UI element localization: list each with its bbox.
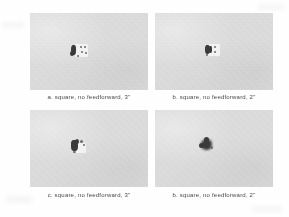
panel-a-target-blob: [68, 43, 90, 61]
panel-a: [30, 13, 148, 90]
panel-b-caption: b. square, no feedforward, 2ʺ: [155, 94, 273, 100]
panel-b-caption-text: b. square, no feedforward, 2ʺ: [173, 94, 256, 100]
panel-c: [30, 110, 148, 187]
panel-a-caption: a. square, no feedforward, 3ʺ: [30, 94, 148, 100]
panel-c-caption: c. square, no feedforward, 3ʺ: [30, 192, 148, 198]
panel-b: [155, 13, 273, 90]
panel-d-caption: b. square, no feedforward, 2ʺ: [155, 192, 273, 198]
panel-d: [155, 110, 273, 187]
scan-artifact: [6, 196, 32, 203]
scan-artifact: [252, 206, 282, 212]
panel-b-target-blob: [203, 44, 221, 59]
panel-a-caption-text: a. square, no feedforward, 3ʺ: [48, 94, 131, 100]
scan-artifact: [258, 4, 284, 10]
scan-artifact: [2, 22, 24, 28]
panel-d-image: [155, 110, 273, 187]
panel-d-caption-text: b. square, no feedforward, 2ʺ: [173, 192, 256, 198]
panel-c-image: [30, 110, 148, 187]
panel-d-target-blob: [199, 137, 217, 155]
panel-b-image: [155, 13, 273, 90]
panel-c-caption-text: c. square, no feedforward, 3ʺ: [48, 192, 131, 198]
panel-c-target-blob: [69, 138, 89, 156]
figure-container: a. square, no feedforward, 3ʺ b. square,…: [0, 0, 289, 217]
panel-a-image: [30, 13, 148, 90]
